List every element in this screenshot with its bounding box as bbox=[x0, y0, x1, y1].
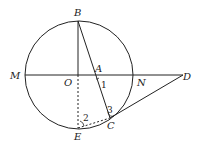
label-angle-1: 1 bbox=[101, 80, 107, 90]
segment-bc bbox=[78, 21, 110, 118]
label-n: N bbox=[136, 77, 147, 88]
segment-cd-tangent bbox=[110, 75, 183, 118]
label-c: C bbox=[107, 120, 115, 131]
label-m: M bbox=[9, 70, 21, 81]
label-angle-3: 3 bbox=[107, 105, 113, 115]
label-b: B bbox=[73, 7, 81, 18]
label-a: A bbox=[94, 63, 102, 74]
geometry-diagram: B M O A 1 N D 3 2 E C bbox=[0, 0, 200, 146]
label-o: O bbox=[64, 77, 72, 88]
label-e: E bbox=[73, 131, 82, 142]
label-angle-2: 2 bbox=[83, 113, 89, 123]
label-d: D bbox=[182, 71, 191, 82]
